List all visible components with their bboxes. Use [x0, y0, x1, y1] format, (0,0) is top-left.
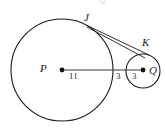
point-label-j: J — [84, 12, 89, 23]
point-label-k: K — [142, 37, 149, 48]
tangent-line-upper-jk — [86, 25, 149, 55]
measure-label-radius-large: 11 — [69, 72, 78, 81]
measure-label-gap: 3 — [116, 72, 121, 81]
point-dot-q — [141, 68, 146, 73]
geometry-figure: Q P Q J K 11 3 3 — [0, 0, 165, 131]
top-cut-text: Q — [99, 0, 106, 5]
point-label-q: Q — [149, 65, 157, 76]
point-label-p: P — [40, 63, 47, 74]
point-dot-p — [60, 68, 65, 73]
diagram-canvas — [0, 0, 165, 131]
tangent-line-lower-jk — [87, 27, 145, 58]
measure-label-radius-small: 3 — [132, 72, 137, 81]
